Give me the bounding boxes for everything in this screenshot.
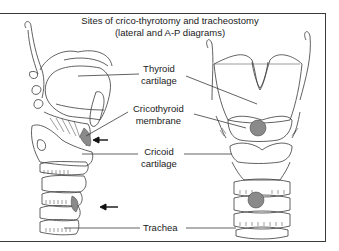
lateral-epiglottis xyxy=(25,22,44,98)
ap-thyroid-cartilage xyxy=(214,55,302,123)
arrow-tracheostomy xyxy=(100,204,118,210)
label-cricothyroid-membrane: Cricothyroid membrane xyxy=(132,103,185,126)
label-cricoid-cartilage: Cricoid cartilage xyxy=(140,146,178,169)
lateral-thyroid-cartilage xyxy=(45,66,110,120)
lateral-tracheostomy-site xyxy=(71,196,78,212)
lateral-trachea xyxy=(40,162,88,235)
arrow-cricothyroid xyxy=(93,137,108,143)
leader-thyroid-right xyxy=(186,76,257,104)
label-thyroid-cartilage: Thyroid cartilage xyxy=(140,63,178,86)
lateral-hyoid xyxy=(40,51,112,70)
ap-tracheostomy-site xyxy=(248,192,264,208)
label-trachea: Trachea xyxy=(142,222,179,234)
ap-cricothyroid-site xyxy=(250,120,266,136)
ap-cricoid-cartilage xyxy=(230,143,292,163)
lateral-cricothyroid-muscle xyxy=(50,118,80,138)
ap-trachea xyxy=(234,179,290,239)
lateral-cricothyroid-site xyxy=(80,128,91,146)
leader-cricothyroid-left xyxy=(86,112,128,136)
